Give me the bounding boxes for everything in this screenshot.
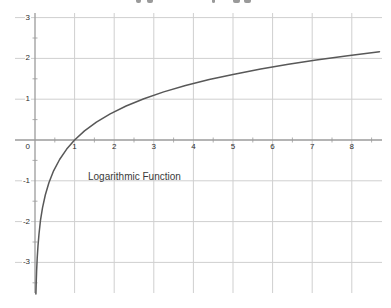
y-tick-label: -2 <box>22 218 31 226</box>
y-tick-label: 2 <box>25 54 31 62</box>
y-tick-label: -3 <box>22 258 31 266</box>
plot-area <box>0 0 391 308</box>
x-tick-label: 3 <box>152 143 156 151</box>
x-tick-label: 2 <box>112 143 116 151</box>
y-tick-label: 1 <box>25 95 31 103</box>
x-tick-label: 7 <box>310 143 314 151</box>
origin-label: 0 <box>25 143 31 151</box>
x-tick-label: 8 <box>350 143 354 151</box>
x-tick-label: 4 <box>191 143 195 151</box>
curve-annotation: Logarithmic Function <box>88 171 181 182</box>
y-tick-label: -1 <box>22 177 31 185</box>
log-chart-canvas: 12345678321-1-2-30 Logarithmic Function <box>0 0 391 308</box>
x-tick-label: 6 <box>270 143 274 151</box>
y-tick-label: 3 <box>25 14 31 22</box>
x-tick-label: 1 <box>72 143 76 151</box>
x-tick-label: 5 <box>231 143 235 151</box>
